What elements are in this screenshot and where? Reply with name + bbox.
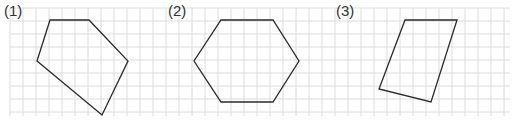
problem-label-1: (1) — [4, 2, 22, 19]
grid-lines — [10, 8, 510, 116]
problem-label-3: (3) — [336, 2, 354, 19]
grid-diagram — [0, 0, 520, 125]
shape-3-quadrilateral — [379, 20, 457, 102]
problem-label-2: (2) — [168, 2, 186, 19]
